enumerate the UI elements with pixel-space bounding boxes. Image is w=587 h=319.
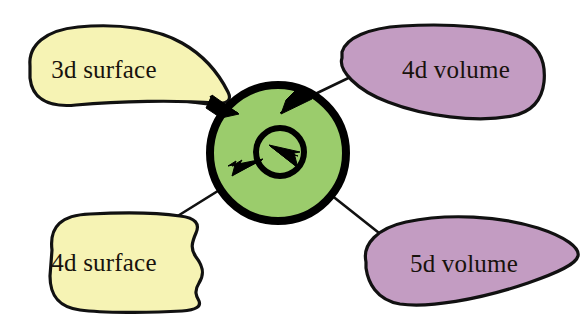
callout-3d-surface-label: 3d surface	[51, 56, 156, 83]
core-outer-circle	[210, 85, 346, 221]
callout-4d-surface-label: 4d surface	[51, 249, 156, 276]
callout-4d-surface[interactable]: 4d surface	[50, 213, 203, 312]
core-circles[interactable]	[210, 85, 346, 221]
callout-4d-volume[interactable]: 4d volume	[341, 25, 544, 119]
callout-4d-volume-label: 4d volume	[402, 56, 510, 83]
diagram-root: 4d surface 3d surface 4d volume 5d volum…	[0, 0, 587, 319]
callout-5d-volume-label: 5d volume	[410, 250, 518, 277]
callout-3d-surface[interactable]: 3d surface	[30, 26, 230, 106]
diagram-canvas: 4d surface 3d surface 4d volume 5d volum…	[0, 0, 587, 319]
callout-5d-volume[interactable]: 5d volume	[365, 217, 578, 305]
